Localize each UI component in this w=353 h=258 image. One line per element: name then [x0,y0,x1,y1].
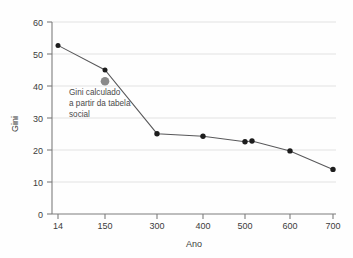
x-tick-label-500: 500 [237,221,252,231]
x-tick-labels: 14 150 300 400 500 600 700 [53,221,341,231]
annotation-line-2: a partir da tabela [69,99,131,108]
y-tick-label-60: 60 [33,18,43,28]
data-point-14 [56,43,61,48]
data-point-600 [287,148,292,153]
x-tick-label-150: 150 [97,221,112,231]
y-tick-label-20: 20 [33,146,43,156]
data-point-400 [200,134,205,139]
x-tick-label-600: 600 [282,221,297,231]
y-tick-labels: 60 50 40 30 20 10 0 [33,18,43,220]
annotation-line-3: social [69,110,90,119]
y-tick-label-30: 30 [33,114,43,124]
chart-figure: 60 50 40 30 20 10 0 14 150 300 400 500 6… [0,0,353,258]
data-point-500 [242,139,247,144]
x-tick-label-400: 400 [195,221,210,231]
y-tick-label-40: 40 [33,82,43,92]
data-point-515 [249,138,254,143]
x-axis-title: Ano [186,239,202,249]
y-tick-label-50: 50 [33,50,43,60]
annotation-line-1: Gini calculado [69,88,121,97]
y-tick-marks [47,22,52,214]
data-point-700 [330,167,335,172]
annotation-gini-tabela-social: Gini calculado a partir da tabela social [69,88,131,119]
y-axis-title: Gini [10,116,20,132]
x-tick-marks [58,214,333,219]
y-tick-label-10: 10 [33,178,43,188]
data-point-gini-tabela-social [101,77,110,86]
y-tick-label-0: 0 [38,210,43,220]
x-tick-label-300: 300 [149,221,164,231]
x-tick-label-700: 700 [325,221,340,231]
gini-line-chart: 60 50 40 30 20 10 0 14 150 300 400 500 6… [0,0,353,258]
data-point-300 [154,131,159,136]
x-tick-label-14: 14 [53,221,63,231]
data-point-150 [103,68,108,73]
